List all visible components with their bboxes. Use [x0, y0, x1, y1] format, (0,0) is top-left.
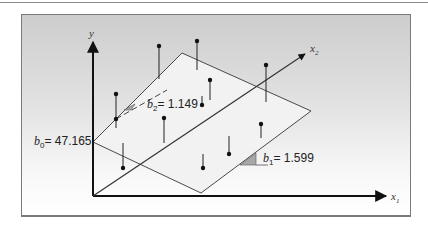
data-point	[162, 116, 166, 120]
data-point	[200, 103, 204, 107]
data-point	[227, 152, 231, 156]
b0-label: b0= 47.165	[34, 134, 92, 150]
data-point	[157, 44, 161, 48]
data-point	[195, 39, 199, 43]
regression-plane-diagram: y x1 x2 b0= 47.165 b2= 1.149 b1= 1.599	[0, 0, 428, 228]
data-point	[259, 122, 263, 126]
x2-axis-label: x2	[309, 42, 319, 57]
data-point	[121, 166, 125, 170]
data-point	[201, 166, 205, 170]
data-point	[208, 78, 212, 82]
data-point	[114, 117, 118, 121]
x1-axis-label: x1	[390, 190, 399, 205]
data-point	[264, 63, 268, 67]
y-axis-label: y	[88, 27, 94, 39]
b1-label: b1= 1.599	[263, 151, 314, 167]
data-point	[114, 92, 118, 96]
